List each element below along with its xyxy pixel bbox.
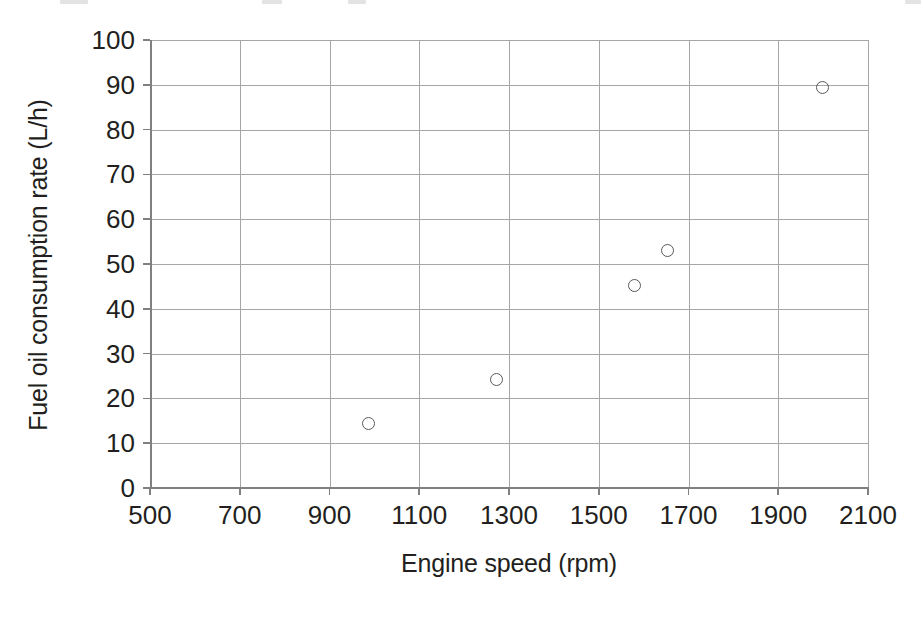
scatter-chart-figure: Fuel oil consumption rate (L/h) 01020304… — [0, 0, 923, 620]
x-axis-title-text: Engine speed (rpm) — [401, 549, 617, 577]
y-axis-tick — [143, 218, 150, 220]
data-point-marker — [490, 373, 503, 386]
x-axis-tick-labels: 500700900110013001500170019002100 — [0, 0, 923, 620]
x-axis-tick-label: 2100 — [808, 500, 923, 530]
x-axis-tick — [598, 488, 600, 495]
y-axis-tick — [143, 398, 150, 400]
data-point-marker — [661, 244, 674, 257]
y-axis-tick — [143, 39, 150, 41]
x-axis-tick — [867, 488, 869, 495]
x-axis-title: Engine speed (rpm) — [150, 549, 868, 578]
x-axis-tick — [149, 488, 151, 495]
x-axis-tick — [239, 488, 241, 495]
x-axis-tick — [777, 488, 779, 495]
x-axis-tick — [688, 488, 690, 495]
y-axis-tick — [143, 263, 150, 265]
x-axis-tick — [508, 488, 510, 495]
y-axis-tick — [143, 308, 150, 310]
y-axis-tick — [143, 84, 150, 86]
data-point-marker — [816, 81, 829, 94]
y-axis-tick — [143, 442, 150, 444]
x-axis-tick — [329, 488, 331, 495]
data-point-marker — [628, 279, 641, 292]
data-point-marker — [362, 417, 375, 430]
y-axis-tick — [143, 129, 150, 131]
y-axis-tick — [143, 353, 150, 355]
x-axis-tick — [418, 488, 420, 495]
y-axis-tick — [143, 174, 150, 176]
